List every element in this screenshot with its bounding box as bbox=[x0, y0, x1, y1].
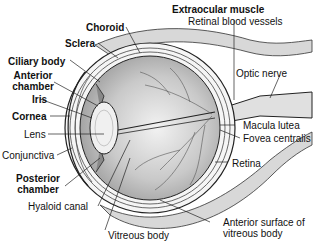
label-posterior-chamber-line1: Posterior bbox=[16, 173, 60, 184]
label-macula-lutea: Macula lutea bbox=[243, 120, 300, 131]
label-sclera: Sclera bbox=[65, 38, 95, 49]
label-conjunctiva: Conjunctiva bbox=[2, 150, 54, 161]
label-anterior-surface-line2: vitreous body bbox=[223, 228, 282, 239]
label-hyaloid-canal: Hyaloid canal bbox=[28, 201, 88, 212]
label-anterior-chamber-line1: Anterior bbox=[14, 70, 53, 81]
label-anterior-chamber: Anterior chamber bbox=[12, 70, 54, 92]
label-anterior-surface-vitreous: Anterior surface of vitreous body bbox=[223, 217, 305, 239]
label-vitreous-body: Vitreous body bbox=[108, 230, 169, 241]
label-posterior-chamber-line2: chamber bbox=[17, 184, 59, 195]
label-anterior-surface-line1: Anterior surface of bbox=[223, 217, 305, 228]
label-posterior-chamber: Posterior chamber bbox=[14, 173, 62, 195]
label-optic-nerve: Optic nerve bbox=[236, 68, 287, 79]
label-retina: Retina bbox=[232, 158, 261, 169]
label-choroid: Choroid bbox=[86, 22, 124, 33]
label-cornea: Cornea bbox=[12, 111, 46, 122]
label-extraocular-muscle: Extraocular muscle bbox=[172, 4, 264, 15]
label-iris: Iris bbox=[32, 94, 47, 105]
label-fovea-centralis: Fovea centralis bbox=[243, 133, 311, 144]
label-lens: Lens bbox=[24, 129, 46, 140]
label-retinal-blood-vessels: Retinal blood vessels bbox=[188, 16, 283, 27]
label-ciliary-body: Ciliary body bbox=[8, 56, 65, 67]
eye-anatomy-diagram: Extraocular muscle Retinal blood vessels… bbox=[0, 0, 314, 248]
label-anterior-chamber-line2: chamber bbox=[12, 81, 54, 92]
